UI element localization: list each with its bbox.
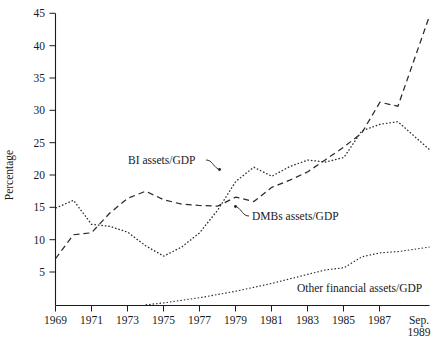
axes (56, 14, 430, 306)
x-tick-last: Sep. 1989 (408, 314, 431, 338)
y-tick: 25 (34, 137, 56, 149)
x-tick-label-1989: 1989 (408, 326, 431, 338)
y-tick: 20 (34, 169, 56, 181)
annotation-label-bi-assets: BI assets/GDP (128, 154, 195, 166)
series-line-other-financial-assets (146, 247, 430, 305)
x-tick: 1977 (188, 306, 211, 327)
x-tick-label: 1977 (188, 314, 211, 326)
x-tick-label: 1979 (224, 314, 247, 326)
y-axis-title: Percentage (3, 150, 16, 200)
x-tick-label: 1985 (332, 314, 355, 326)
x-tick-label: 1983 (296, 314, 319, 326)
x-tick-label: 1969 (44, 314, 67, 326)
y-tick-label: 15 (34, 201, 46, 213)
x-tick: 1985 (332, 306, 355, 327)
annotation-label-dmbs-assets: DMBs assets/GDP (252, 210, 339, 222)
y-tick-label: 40 (34, 40, 46, 52)
x-tick: 1975 (152, 306, 175, 327)
x-ticks: 1969 1971 1973 1975 1977 1979 1981 1983 … (44, 306, 431, 339)
y-tick: 5 (39, 266, 55, 278)
series-line-dmbs-assets (56, 16, 430, 259)
annotation-other-financial-assets: Other financial assets/GDP (297, 282, 422, 294)
annotation-bi-assets: BI assets/GDP (128, 154, 221, 171)
x-tick: 1983 (296, 306, 319, 327)
x-tick: 1981 (260, 306, 283, 327)
annotation-label-other-financial-assets: Other financial assets/GDP (297, 282, 422, 294)
y-tick-label: 45 (34, 7, 46, 19)
x-tick: 1979 (224, 306, 247, 327)
y-tick-label: 10 (34, 234, 46, 246)
series-group (56, 16, 430, 305)
y-tick-label: 35 (34, 72, 46, 84)
y-ticks: 5 10 15 20 25 30 35 40 45 (34, 7, 56, 278)
y-tick-label: 5 (39, 266, 45, 278)
y-tick: 30 (34, 104, 56, 116)
y-tick-label: 30 (34, 104, 46, 116)
series-line-bi-assets (56, 122, 430, 256)
x-tick-label: 1973 (116, 314, 139, 326)
y-tick-label: 20 (34, 169, 46, 181)
y-tick: 10 (34, 234, 56, 246)
x-tick-label: 1975 (152, 314, 175, 326)
x-tick-label: 1971 (80, 314, 103, 326)
line-chart: Percentage 5 10 15 20 25 30 35 40 (0, 0, 441, 347)
annotation-dmbs-assets: DMBs assets/GDP (234, 205, 338, 222)
x-tick: 1969 (44, 306, 67, 327)
x-tick: 1971 (80, 306, 103, 327)
x-tick: 1987 (368, 306, 391, 327)
y-tick: 45 (34, 7, 56, 19)
x-tick-label: 1981 (260, 314, 283, 326)
x-tick-label: 1987 (368, 314, 391, 326)
chart-figure: Percentage 5 10 15 20 25 30 35 40 (0, 0, 441, 347)
y-tick: 15 (34, 201, 56, 213)
x-tick: 1973 (116, 306, 139, 327)
y-tick: 35 (34, 72, 56, 84)
y-tick: 40 (34, 40, 56, 52)
y-tick-label: 25 (34, 137, 46, 149)
